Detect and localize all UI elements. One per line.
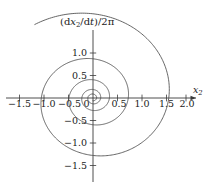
spiral-phase-plot-figure: (dx2/dt)/2π −1.5 — [0, 0, 209, 188]
title-open: (d — [60, 16, 71, 27]
x-axis-label: x2 — [193, 84, 203, 97]
x-label-2-0: 2.0 — [179, 98, 194, 109]
plot-title: (dx2/dt)/2π — [60, 16, 115, 29]
x-axis-label-subscript: 2 — [197, 89, 202, 97]
y-label-0-5: 0.5 — [72, 70, 87, 81]
y-label-neg1-0: −1.0 — [64, 137, 87, 148]
x-label-0-5: 0.5 — [111, 98, 126, 109]
spiral-trajectory-curve — [35, 13, 169, 156]
x-label-neg1-0: −1.0 — [32, 98, 55, 109]
x-label-neg1-5: −1.5 — [8, 98, 31, 109]
y-label-1-0: 1.0 — [72, 47, 87, 58]
x-label-1-0: 1.0 — [134, 98, 149, 109]
title-close: )/2 — [94, 16, 108, 27]
y-label-neg1-5: −1.5 — [64, 160, 87, 171]
origin-label: 0 — [83, 98, 89, 109]
plot-canvas: (dx2/dt)/2π −1.5 — [0, 0, 209, 188]
